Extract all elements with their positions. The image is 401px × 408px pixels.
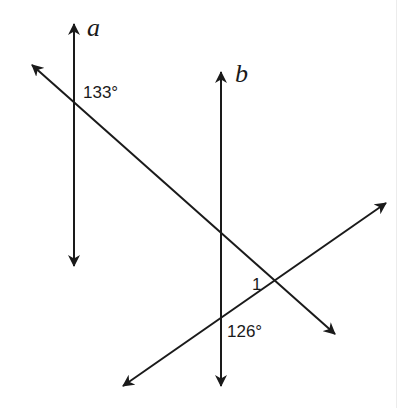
geometry-diagram: a b 133° 1 126° bbox=[0, 0, 401, 408]
transversal-2 bbox=[123, 203, 386, 386]
angle-133-label: 133° bbox=[83, 83, 118, 102]
line-b-label: b bbox=[235, 59, 248, 88]
transversal-1 bbox=[32, 65, 335, 334]
angle-126-label: 126° bbox=[227, 322, 262, 341]
line-a-label: a bbox=[87, 13, 100, 42]
angle-1-label: 1 bbox=[252, 275, 261, 294]
